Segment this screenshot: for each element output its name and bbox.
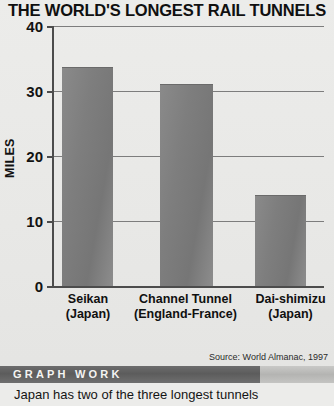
x-axis-line [52,286,324,288]
gridline-40 [54,26,324,27]
y-tick-label-30: 30 [26,83,43,100]
graph-work-banner: GRAPH WORK [0,366,334,383]
category-label-line2: (England-France) [118,307,253,322]
source-note: Source: World Almanac, 1997 [209,352,328,362]
tick-0 [47,286,53,288]
bar-seikan [62,67,113,286]
tick-20 [47,156,53,158]
category-label-line1: Channel Tunnel [139,292,232,306]
tick-10 [47,221,53,223]
caption-area: Japan has two of the three longest tunne… [0,383,334,406]
y-tick-label-40: 40 [26,18,43,35]
plot-area: 40 30 20 10 0 [52,26,324,288]
category-label-channel-tunnel: Channel Tunnel (England-France) [118,292,253,322]
category-label-line1: Dai-shimizu [255,292,325,306]
graph-work-label: GRAPH WORK [13,368,123,380]
tick-30 [47,91,53,93]
y-axis-title: MILES [3,138,17,178]
y-tick-label-10: 10 [26,213,43,230]
category-label-line2: (Japan) [238,307,334,322]
chart-title: THE WORLD'S LONGEST RAIL TUNNELS [0,1,334,20]
caption-text: Japan has two of the three longest tunne… [14,387,324,403]
bar-channel-tunnel [160,84,213,287]
category-label-line1: Seikan [68,292,108,306]
y-tick-label-20: 20 [26,148,43,165]
chart-figure: THE WORLD'S LONGEST RAIL TUNNELS MILES 4… [0,0,334,406]
category-label-dai-shimizu: Dai-shimizu (Japan) [238,292,334,322]
tick-40 [47,26,53,28]
x-axis-category-labels: Seikan (Japan) Channel Tunnel (England-F… [52,292,324,332]
bar-dai-shimizu [255,195,306,286]
